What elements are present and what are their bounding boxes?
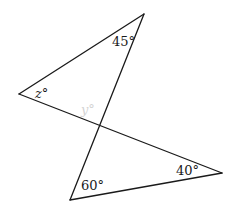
angle-label-bottom: 60° [81, 178, 104, 193]
segment-top-to-left [19, 14, 144, 94]
angle-label-right: 40° [176, 163, 199, 178]
angle-label-left: z° [34, 86, 48, 101]
angle-label-faint: y° [80, 102, 95, 117]
segment-left-to-right [19, 94, 222, 173]
geometry-diagram: 45° z° 60° 40° y° [0, 0, 236, 206]
angle-label-top: 45° [112, 34, 135, 49]
